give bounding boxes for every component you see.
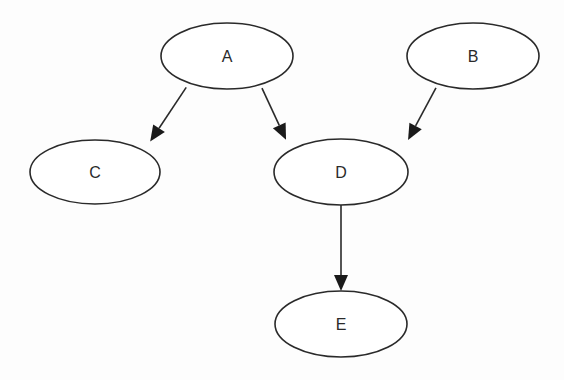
edge-d-to-e [334,205,348,291]
node-c: C [30,140,160,204]
node-label: B [468,48,479,65]
edge-a-to-d [262,88,286,140]
arrowhead-icon [334,275,348,291]
edge-line [159,87,186,128]
node-a: A [161,23,293,89]
node-label: D [335,164,347,181]
node-label: A [222,48,233,65]
edge-line [262,88,279,125]
edge-a-to-c [150,87,186,141]
node-label: E [336,316,347,333]
node-label: C [89,164,101,181]
node-e: E [275,291,407,357]
arrowhead-icon [408,123,422,140]
edge-line [416,88,436,126]
nodes-layer: ABCDE [30,23,539,357]
arrowhead-icon [150,124,165,141]
dag-diagram: ABCDE [0,0,564,380]
node-b: B [407,23,539,89]
edge-b-to-d [408,88,436,140]
node-d: D [274,139,408,205]
